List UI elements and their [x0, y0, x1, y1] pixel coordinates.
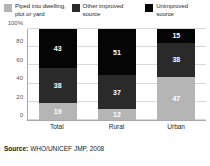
plot-area: 433819513712153847 — [27, 29, 206, 121]
source-label: Source: — [4, 145, 28, 152]
bar-segment: 43 — [39, 29, 77, 68]
x-axis-tick: Rural — [97, 123, 135, 131]
bar-group: 153847 — [157, 29, 195, 120]
chart-legend: Piped into dwelling, plot or yard Other … — [0, 1, 210, 25]
legend-label-other-improved: Other improved source — [83, 3, 141, 18]
bar-segment: 47 — [157, 77, 195, 120]
y-axis-tick: 60 — [0, 57, 23, 63]
bar-segment-value: 15 — [172, 32, 180, 39]
y-axis-tick: 40 — [0, 75, 23, 81]
legend-label-piped: Piped into dwelling, plot or yard — [15, 3, 67, 18]
x-axis-tick-labels: TotalRuralUrban — [27, 123, 206, 135]
source-text: WHO/UNICEF JMP, 2008 — [30, 145, 104, 152]
bar-segment-value: 37 — [113, 89, 121, 96]
bar-segment-value: 38 — [172, 56, 180, 63]
bar-segment: 37 — [98, 75, 136, 109]
bar-segment: 38 — [157, 43, 195, 78]
bar-segment-value: 12 — [113, 111, 121, 118]
legend-swatch-unimproved — [145, 4, 153, 12]
source-note: Source:WHO/UNICEF JMP, 2008 — [4, 144, 204, 153]
y-axis-tick: 100% — [0, 20, 23, 26]
bar-segment-value: 43 — [54, 45, 62, 52]
bar-segment-value: 51 — [113, 49, 121, 56]
bar-group: 513712 — [98, 29, 136, 120]
stacked-bar-chart-figure: Piped into dwelling, plot or yard Other … — [0, 0, 210, 166]
bar-segment-value: 47 — [172, 95, 180, 102]
y-axis-tick: 20 — [0, 94, 23, 100]
bar-segment: 12 — [98, 109, 136, 120]
y-axis-tick: 80 — [0, 38, 23, 44]
legend-label-unimproved: Unimproved source — [156, 3, 207, 18]
bar-segment: 19 — [39, 103, 77, 120]
legend-swatch-piped — [4, 4, 12, 12]
legend-item-other-improved: Other improved source — [72, 3, 141, 18]
bar-segment-value: 38 — [54, 82, 62, 89]
bar-series-container: 433819513712153847 — [28, 29, 206, 120]
legend-item-unimproved: Unimproved source — [145, 3, 207, 18]
y-axis-tick: 0 — [0, 112, 23, 118]
bar-segment: 51 — [98, 29, 136, 75]
bar-segment: 15 — [157, 29, 195, 43]
legend-item-piped: Piped into dwelling, plot or yard — [4, 3, 67, 18]
bar-segment: 38 — [39, 68, 77, 103]
bar-segment-value: 19 — [54, 108, 62, 115]
x-axis-tick: Urban — [157, 123, 195, 131]
x-axis-tick: Total — [38, 123, 76, 131]
bar-group: 433819 — [39, 29, 77, 120]
legend-swatch-other-improved — [72, 4, 80, 12]
